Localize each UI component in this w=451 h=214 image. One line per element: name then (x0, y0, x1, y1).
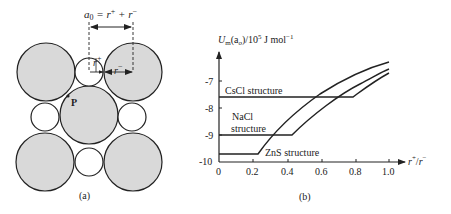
cscl-structure-label: CsCl structure (225, 85, 283, 96)
zns-structure-label: ZnS structure (265, 147, 320, 158)
a0-equation-label: a0 = r+ + r− (84, 7, 137, 22)
nacl-structure-label-line2: structure (231, 123, 267, 134)
panel-a-crystal-diagram: a0 = r+ + r− r+ r− P (a) (16, 7, 162, 202)
y-tick-label: -10 (199, 156, 212, 167)
cation-circle-right (118, 103, 146, 131)
zns-curve (219, 62, 389, 154)
x-tick-label: 0.6 (315, 166, 328, 177)
nacl-structure-label: NaCl (232, 111, 253, 122)
cation-circle-bottom (75, 148, 103, 176)
x-axis-label: r+/r− (408, 154, 427, 167)
panel-b-energy-chart: Um(ao)/105 J mol−1 -7 -8 -9 -10 0 0.2 0.… (199, 33, 427, 203)
y-tick-label: -8 (205, 103, 213, 114)
x-tick-label: 1.0 (382, 166, 395, 177)
anion-circle-top-left (17, 43, 75, 101)
anion-circle-bottom-right (104, 133, 162, 191)
panel-a-caption: (a) (79, 190, 90, 202)
y-tick-label: -7 (205, 76, 213, 87)
cation-circle-left (31, 103, 59, 131)
y-tick-label: -9 (205, 130, 213, 141)
x-tick-label: 0.4 (281, 166, 294, 177)
figure-canvas: a0 = r+ + r− r+ r− P (a) Um(ao)/105 J mo… (0, 0, 451, 214)
panel-b-caption: (b) (299, 191, 311, 203)
x-tick-label: 0.2 (246, 166, 259, 177)
point-p-marker (66, 94, 69, 97)
point-p-label: P (71, 97, 77, 108)
anion-circle-bottom-left (16, 133, 74, 191)
y-axis-label: Um(ao)/105 J mol−1 (218, 33, 294, 47)
x-tick-label: 0 (216, 166, 221, 177)
x-tick-label: 0.8 (349, 166, 362, 177)
